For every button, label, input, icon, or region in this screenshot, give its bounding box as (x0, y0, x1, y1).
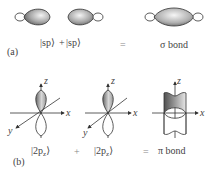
sigma-bond-label: σ bond (160, 40, 188, 50)
x-axis-label-1: x (66, 108, 70, 118)
sp-orbital-left-icon (15, 9, 50, 25)
y-axis-label-1: y (8, 126, 12, 136)
pi-bond-icon (152, 82, 198, 138)
plus-sign-b: + (74, 147, 80, 157)
p-term-1: |2pz⟩ (31, 146, 50, 158)
y-axis-label-2: y (83, 128, 87, 138)
z-axis-label-2: z (111, 76, 115, 86)
panel-b-tag: (b) (13, 157, 25, 167)
p-orbital-1-icon (10, 84, 64, 138)
equals-sign-a: = (120, 40, 126, 50)
sigma-bond-icon (145, 8, 203, 26)
x-axis-label-3: x (200, 108, 204, 118)
equals-sign-b: = (143, 147, 149, 157)
pi-bond-label: π bond (158, 146, 186, 156)
sp-term-left: |sp⟩ (40, 38, 55, 48)
panel-a-tag: (a) (7, 47, 18, 57)
p-orbital-2-icon (85, 84, 131, 138)
sp-term-right: |sp⟩ (66, 38, 81, 48)
plus-sign-a: + (59, 38, 65, 48)
sp-orbital-right-icon (68, 9, 103, 25)
z-axis-label-3: z (177, 76, 181, 86)
p-term-2: |2pz⟩ (94, 146, 113, 158)
z-axis-label-1: z (44, 76, 48, 86)
x-axis-label-2: x (133, 108, 137, 118)
